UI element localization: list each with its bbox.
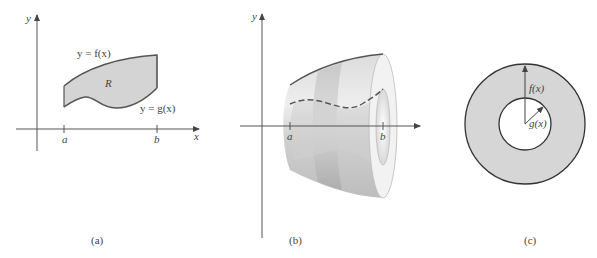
tick-a-label: a <box>287 130 293 142</box>
tick-a-label: a <box>62 133 68 145</box>
inner-radius-label: g(x) <box>529 117 547 130</box>
tick-b-label: b <box>380 130 386 142</box>
tick-b-label: b <box>154 133 160 145</box>
panel-b: y a b (b) <box>240 10 420 247</box>
caption-b: (b) <box>289 234 302 247</box>
upper-curve-label: y = f(x) <box>77 47 111 60</box>
figure-canvas: y x a b y = f(x) R y = g(x) (a) y <box>0 0 597 258</box>
lower-curve-label: y = g(x) <box>140 102 176 115</box>
y-axis-label: y <box>251 10 257 22</box>
x-axis-label: x <box>193 130 199 142</box>
region-label: R <box>104 77 112 89</box>
outer-radius-label: f(x) <box>529 82 545 95</box>
caption-a: (a) <box>91 234 104 247</box>
y-axis-label: y <box>25 12 31 24</box>
panel-a: y x a b y = f(x) R y = g(x) (a) <box>16 12 199 247</box>
panel-c: f(x) g(x) (c) <box>465 64 585 247</box>
caption-c: (c) <box>524 234 537 247</box>
